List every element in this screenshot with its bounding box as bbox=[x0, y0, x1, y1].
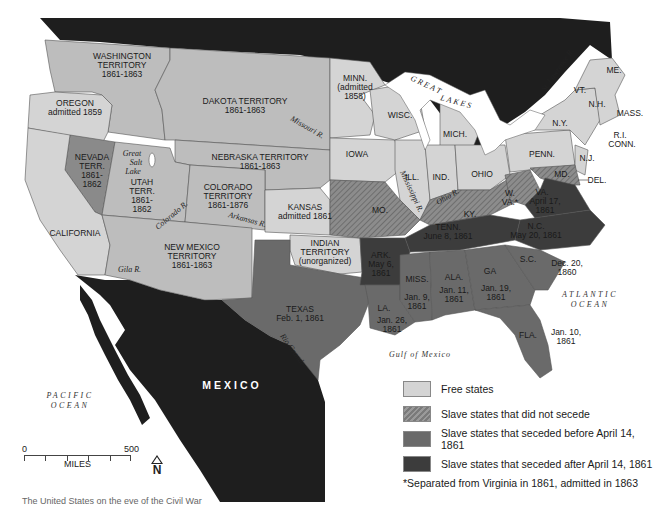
colorado-label: COLORADO TERRITORY 1861-1876 bbox=[204, 182, 253, 210]
svg-text:ALA.: ALA. bbox=[445, 272, 463, 282]
svg-text:1860: 1860 bbox=[558, 267, 577, 277]
legend-footnote: *Separated from Virginia in 1861, admitt… bbox=[403, 477, 638, 489]
florida-state bbox=[475, 305, 552, 378]
pacific-label-2: OCEAN bbox=[51, 401, 90, 410]
ohio-label: OHIO bbox=[471, 169, 493, 179]
svg-text:1861: 1861 bbox=[557, 336, 576, 346]
svg-text:1861: 1861 bbox=[536, 205, 555, 215]
svg-text:1862: 1862 bbox=[83, 179, 102, 189]
missouri-label: MO. bbox=[372, 205, 388, 215]
atlantic-label-2: OCEAN bbox=[571, 300, 610, 309]
salt-lake-label-3: Lake bbox=[124, 167, 141, 176]
svg-text:1861: 1861 bbox=[445, 294, 464, 304]
svg-text:CONN.: CONN. bbox=[608, 139, 635, 149]
new-york-label: N.Y. bbox=[552, 118, 567, 128]
svg-text:1861-1863: 1861-1863 bbox=[225, 105, 266, 115]
maine-label: ME. bbox=[606, 65, 621, 75]
north-label: N bbox=[150, 464, 164, 476]
lower-south-swatch bbox=[403, 431, 431, 447]
map-legend: Free states Slave states that did not se… bbox=[403, 376, 657, 476]
great-salt-lake bbox=[149, 153, 155, 167]
svg-text:CALIFORNIA: CALIFORNIA bbox=[49, 228, 100, 238]
scale-min: 0 bbox=[22, 444, 27, 454]
new-hampshire-label: N.H. bbox=[589, 99, 606, 109]
svg-text:1862: 1862 bbox=[133, 204, 152, 214]
iowa-state bbox=[330, 138, 400, 182]
legend-upper-south: Slave states that seceded after April 14… bbox=[403, 451, 657, 476]
svg-text:1861-1863: 1861-1863 bbox=[172, 260, 213, 270]
new-mexico-label: NEW MEXICO TERRITORY 1861-1863 bbox=[164, 242, 220, 270]
legend-label: Slave states that seceded after April 14… bbox=[441, 458, 652, 470]
scale-unit: MILES bbox=[64, 459, 91, 469]
mississippi-label: MISS. Jan. 9, 1861 bbox=[404, 274, 430, 311]
wisconsin-label: WISC. bbox=[388, 110, 413, 120]
california-label: CALIFORNIA bbox=[49, 228, 100, 238]
florida-label: FLA. bbox=[519, 330, 537, 340]
legend-label: Free states bbox=[441, 383, 494, 395]
kentucky-label: KY. bbox=[464, 209, 477, 219]
svg-text:1861-1876: 1861-1876 bbox=[208, 200, 249, 210]
svg-text:VA.*: VA.* bbox=[502, 197, 519, 207]
scale-max: 500 bbox=[124, 444, 139, 454]
michigan-label: MICH. bbox=[443, 129, 467, 139]
svg-text:1861: 1861 bbox=[383, 324, 402, 334]
svg-text:(unorganized): (unorganized) bbox=[299, 256, 352, 266]
svg-text:1861: 1861 bbox=[487, 292, 506, 302]
pacific-label-1: PACIFIC bbox=[45, 391, 93, 400]
vermont-label: VT. bbox=[574, 85, 586, 95]
svg-text:S.C.: S.C. bbox=[520, 254, 537, 264]
svg-text:May 20, 1861: May 20, 1861 bbox=[510, 230, 562, 240]
upper-south-swatch bbox=[403, 456, 431, 472]
massachusetts-label: MASS. bbox=[617, 108, 643, 118]
florida-date: Jan. 10, 1861 bbox=[551, 327, 581, 346]
free-states-swatch bbox=[403, 381, 431, 397]
iowa-label: IOWA bbox=[346, 149, 369, 159]
south-carolina-label: S.C. bbox=[520, 254, 537, 264]
legend-border-states: Slave states that did not secede bbox=[403, 401, 657, 426]
new-jersey-label: N.J. bbox=[579, 153, 594, 163]
svg-text:admitted 1859: admitted 1859 bbox=[48, 107, 102, 117]
map-caption: The United States on the eve of the Civi… bbox=[22, 496, 202, 506]
salt-lake-label-1: Great bbox=[123, 149, 142, 158]
legend-free-states: Free states bbox=[403, 376, 657, 401]
svg-text:1858): 1858) bbox=[344, 91, 366, 101]
svg-text:1861-1863: 1861-1863 bbox=[240, 161, 281, 171]
svg-text:MISS.: MISS. bbox=[405, 274, 428, 284]
legend-lower-south: Slave states that seceded before April 1… bbox=[403, 426, 657, 451]
ri-conn-label: R.I. CONN. bbox=[608, 130, 635, 149]
svg-text:FLA.: FLA. bbox=[519, 330, 537, 340]
gila-river-label: Gila R. bbox=[118, 265, 141, 274]
atlantic-label-1: ATLANTIC bbox=[561, 290, 618, 299]
svg-text:1861-1863: 1861-1863 bbox=[102, 69, 143, 79]
utah-label: UTAH TERR. 1861- 1862 bbox=[129, 177, 155, 214]
legend-label: Slave states that seceded before April 1… bbox=[441, 427, 657, 451]
illinois-label: ILL. bbox=[405, 172, 419, 182]
indiana-label: IND. bbox=[433, 172, 450, 182]
legend-label: Slave states that did not secede bbox=[441, 408, 590, 420]
delaware-label: DEL. bbox=[588, 175, 607, 185]
mexico-label: MEXICO bbox=[202, 379, 261, 391]
svg-text:1861: 1861 bbox=[408, 301, 427, 311]
canada-label: CANADA bbox=[308, 5, 372, 17]
salt-lake-label-2: Salt bbox=[130, 158, 143, 167]
svg-text:LA.: LA. bbox=[378, 303, 391, 313]
svg-text:GA: GA bbox=[484, 266, 497, 276]
maryland-label: MD. bbox=[554, 169, 570, 179]
svg-text:1861: 1861 bbox=[372, 268, 391, 278]
svg-text:June 8, 1861: June 8, 1861 bbox=[423, 231, 472, 241]
north-indicator: N bbox=[150, 455, 164, 476]
pennsylvania-label: PENN. bbox=[529, 149, 555, 159]
north-arrow-icon bbox=[151, 455, 163, 464]
svg-text:admitted 1861: admitted 1861 bbox=[278, 211, 332, 221]
arkansas-label: ARK. May 6, 1861 bbox=[368, 250, 394, 278]
border-states-swatch bbox=[403, 406, 431, 422]
gulf-label: Gulf of Mexico bbox=[389, 350, 451, 359]
svg-text:Feb. 1, 1861: Feb. 1, 1861 bbox=[276, 313, 324, 323]
